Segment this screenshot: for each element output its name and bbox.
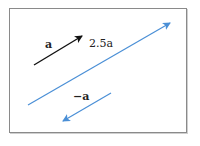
- vector-diagram: [0, 0, 200, 146]
- vector-a-arrow: [34, 36, 82, 65]
- label-neg-a: −a: [73, 91, 89, 102]
- label-a: a: [45, 39, 52, 50]
- label-2-5a: 2.5a: [89, 38, 113, 49]
- vector-2-5a-arrow: [28, 23, 170, 105]
